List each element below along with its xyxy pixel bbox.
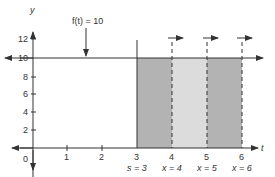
y-tick-8: 8: [23, 72, 28, 82]
y-tick-4: 4: [23, 107, 28, 117]
x-axis-label: t: [261, 143, 264, 153]
y-tick-6: 6: [23, 89, 28, 99]
x-tick-5: 5: [204, 152, 209, 162]
function-label: f(t) = 10: [72, 16, 103, 26]
y-tick-2: 2: [23, 125, 28, 135]
region-label-s3: s = 3: [127, 163, 147, 173]
region-label-x5: x = 5: [196, 163, 218, 173]
y-axis-label: y: [29, 5, 35, 15]
region-5-to-6: [207, 58, 242, 148]
region-3-to-4: [137, 58, 172, 148]
origin-label: 0: [23, 154, 28, 164]
x-tick-1: 1: [64, 152, 69, 162]
region-label-x4: x = 4: [161, 163, 182, 173]
x-tick-6: 6: [239, 152, 244, 162]
x-tick-2: 2: [99, 152, 104, 162]
diagram-svg: y t f(t) = 10 0 12 10 8 6 4 2 1 2 3 4 5 …: [0, 0, 275, 177]
region-4-to-5: [172, 58, 207, 148]
x-tick-3: 3: [134, 152, 139, 162]
x-tick-4: 4: [169, 152, 174, 162]
y-tick-12: 12: [18, 34, 28, 44]
y-tick-10: 10: [18, 53, 28, 63]
region-label-x6: x = 6: [231, 163, 252, 173]
area-accumulation-diagram: y t f(t) = 10 0 12 10 8 6 4 2 1 2 3 4 5 …: [0, 0, 275, 177]
